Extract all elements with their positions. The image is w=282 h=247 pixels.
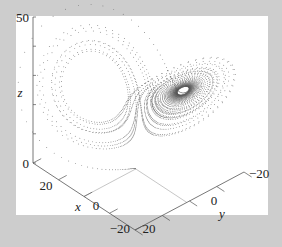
trajectory-point xyxy=(144,124,145,125)
trajectory-point xyxy=(197,74,198,75)
trajectory-point xyxy=(162,97,163,98)
trajectory-point xyxy=(188,74,189,75)
trajectory-point xyxy=(210,108,211,109)
trajectory-point xyxy=(212,77,213,78)
trajectory-point xyxy=(172,81,173,82)
trajectory-point xyxy=(192,118,193,119)
trajectory-point xyxy=(51,82,52,83)
trajectory-point xyxy=(168,101,169,102)
trajectory-point xyxy=(202,64,203,65)
trajectory-point xyxy=(170,86,171,87)
trajectory-point xyxy=(126,84,127,85)
trajectory-point xyxy=(127,117,128,118)
trajectory-point xyxy=(193,100,194,101)
trajectory-point xyxy=(135,121,136,122)
trajectory-point xyxy=(126,105,127,106)
trajectory-point xyxy=(205,72,206,73)
trajectory-point xyxy=(177,110,178,111)
trajectory-point xyxy=(150,97,151,98)
trajectory-point xyxy=(201,82,202,83)
trajectory-point xyxy=(106,148,107,149)
trajectory-point xyxy=(135,54,136,55)
trajectory-point xyxy=(188,105,189,106)
trajectory-point xyxy=(187,70,188,71)
trajectory-point xyxy=(156,135,157,136)
trajectory-point xyxy=(182,112,183,113)
trajectory-point xyxy=(189,102,190,103)
trajectory-point xyxy=(74,112,75,113)
trajectory-point xyxy=(110,145,111,146)
trajectory-point xyxy=(168,81,169,82)
trajectory-point xyxy=(67,119,68,120)
trajectory-point xyxy=(24,52,25,53)
trajectory-point xyxy=(109,46,110,47)
trajectory-point xyxy=(161,101,162,102)
trajectory-point xyxy=(71,138,72,139)
trajectory-point xyxy=(152,84,153,85)
trajectory-point xyxy=(162,136,163,137)
trajectory-point xyxy=(120,111,121,112)
trajectory-point xyxy=(150,90,151,91)
trajectory-point xyxy=(192,96,193,97)
trajectory-point xyxy=(178,83,179,84)
trajectory-point xyxy=(210,68,211,69)
trajectory-point xyxy=(160,86,161,87)
trajectory-point xyxy=(178,116,179,117)
trajectory-point xyxy=(202,106,203,107)
trajectory-point xyxy=(118,34,119,35)
trajectory-point xyxy=(185,111,186,112)
trajectory-point xyxy=(196,65,197,66)
trajectory-point xyxy=(232,85,233,86)
trajectory-point xyxy=(194,83,195,84)
trajectory-point xyxy=(168,114,169,115)
trajectory-point xyxy=(147,106,148,107)
trajectory-point xyxy=(159,115,160,116)
trajectory-point xyxy=(124,108,125,109)
trajectory-point xyxy=(133,123,134,124)
trajectory-point xyxy=(130,130,131,131)
trajectory-point xyxy=(160,98,161,99)
trajectory-point xyxy=(158,108,159,109)
trajectory-point xyxy=(164,83,165,84)
trajectory-point xyxy=(70,133,71,134)
trajectory-point xyxy=(149,38,150,39)
trajectory-point xyxy=(118,147,119,148)
trajectory-point xyxy=(220,90,221,91)
trajectory-point xyxy=(159,101,160,102)
trajectory-point xyxy=(141,90,142,91)
trajectory-point xyxy=(196,88,197,89)
trajectory-point xyxy=(196,85,197,86)
trajectory-point xyxy=(167,70,168,71)
trajectory-point xyxy=(125,107,126,108)
trajectory-point xyxy=(168,103,169,104)
trajectory-point xyxy=(134,124,135,125)
trajectory-point xyxy=(180,112,181,113)
trajectory-point xyxy=(128,169,129,170)
trajectory-point xyxy=(107,145,108,146)
trajectory-point xyxy=(144,71,145,72)
trajectory-point xyxy=(109,128,110,129)
trajectory-point xyxy=(143,122,144,123)
trajectory-point xyxy=(196,77,197,78)
trajectory-point xyxy=(174,108,175,109)
trajectory-point xyxy=(61,60,62,61)
trajectory-point xyxy=(222,59,223,60)
trajectory-point xyxy=(166,112,167,113)
y-tick-label-20: 20 xyxy=(143,221,156,236)
trajectory-point xyxy=(102,142,103,143)
trajectory-point xyxy=(143,124,144,125)
trajectory-point xyxy=(163,81,164,82)
trajectory-point xyxy=(197,92,198,93)
trajectory-point xyxy=(193,92,194,93)
trajectory-point xyxy=(150,117,151,118)
trajectory-point xyxy=(160,82,161,83)
trajectory-point xyxy=(134,76,135,77)
trajectory-point xyxy=(115,141,116,142)
trajectory-point xyxy=(126,135,127,136)
trajectory-point xyxy=(163,106,164,107)
trajectory-point xyxy=(194,93,195,94)
trajectory-point xyxy=(175,111,176,112)
trajectory-point xyxy=(122,112,123,113)
trajectory-point xyxy=(103,148,104,149)
trajectory-point xyxy=(156,123,157,124)
